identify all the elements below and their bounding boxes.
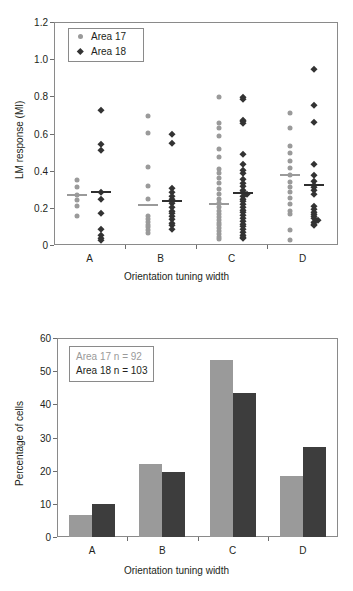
legend-item-area-17: Area 17	[69, 29, 143, 44]
scatter-x-tick-label: D	[299, 253, 306, 264]
median-line	[233, 192, 253, 194]
scatter-point	[216, 125, 221, 130]
bar-y-tick-label: 0	[21, 532, 51, 543]
scatter-panel: LM response (MI) 00.20.40.60.81.01.2 ABC…	[0, 0, 353, 295]
scatter-point	[287, 165, 292, 170]
sample-size-area-18: Area 18 n = 103	[76, 364, 147, 378]
bar-y-tick-mark	[53, 371, 57, 372]
median-line	[280, 174, 300, 176]
scatter-y-tick-mark	[50, 134, 54, 135]
scatter-x-tick-label: C	[228, 253, 235, 264]
bar-x-tick-label: C	[229, 545, 236, 556]
sample-size-area-17: Area 17 n = 92	[76, 350, 147, 364]
bar-area-18-A	[92, 504, 115, 537]
median-line	[209, 203, 229, 205]
scatter-y-tick-label: 0.2	[18, 202, 48, 213]
scatter-y-tick-label: 1.0	[18, 54, 48, 65]
bar-y-tick-mark	[53, 438, 57, 439]
scatter-x-tick-mark	[125, 245, 126, 249]
scatter-y-tick-mark	[50, 59, 54, 60]
scatter-y-tick-mark	[50, 22, 54, 23]
legend-label-area-18: Area 18	[91, 46, 126, 57]
scatter-point	[216, 180, 221, 185]
bar-x-tick-mark	[127, 537, 128, 541]
scatter-point	[145, 230, 150, 235]
scatter-point	[145, 164, 150, 169]
bar-x-tick-label: B	[159, 545, 166, 556]
scatter-point	[74, 203, 79, 208]
scatter-y-tick-label: 0.8	[18, 91, 48, 102]
bar-y-tick-mark	[53, 537, 57, 538]
scatter-y-tick-label: 0.6	[18, 128, 48, 139]
bar-area-17-A	[69, 515, 92, 537]
scatter-point	[287, 195, 292, 200]
diamond-marker-icon	[74, 49, 86, 54]
scatter-point	[216, 95, 221, 100]
scatter-y-tick-mark	[50, 171, 54, 172]
scatter-x-tick-label: A	[86, 253, 93, 264]
bar-panel: Percentage of cells 0102030405060 ABCD A…	[0, 295, 353, 591]
bar-x-tick-label: A	[89, 545, 96, 556]
bar-y-tick-mark	[53, 338, 57, 339]
bar-area-17-B	[139, 464, 162, 537]
scatter-point	[287, 151, 292, 156]
scatter-point	[287, 125, 292, 130]
median-line	[138, 204, 158, 206]
bar-y-tick-label: 50	[21, 366, 51, 377]
scatter-y-tick-label: 0	[18, 240, 48, 251]
scatter-legend: Area 17 Area 18	[68, 28, 144, 62]
bar-y-tick-label: 60	[21, 333, 51, 344]
scatter-point	[74, 185, 79, 190]
scatter-point	[145, 130, 150, 135]
scatter-x-tick-mark	[196, 245, 197, 249]
scatter-point	[287, 212, 292, 217]
scatter-x-tick-mark	[267, 245, 268, 249]
scatter-y-tick-mark	[50, 245, 54, 246]
scatter-point	[216, 134, 221, 139]
scatter-point	[145, 183, 150, 188]
bar-area-17-C	[210, 360, 233, 537]
bar-x-tick-mark	[268, 537, 269, 541]
bar-y-tick-label: 40	[21, 399, 51, 410]
bar-area-18-D	[303, 447, 326, 537]
scatter-y-tick-mark	[50, 208, 54, 209]
scatter-point	[74, 198, 79, 203]
bar-sample-size-box: Area 17 n = 92 Area 18 n = 103	[69, 346, 154, 382]
scatter-y-tick-label: 0.4	[18, 165, 48, 176]
scatter-point	[216, 154, 221, 159]
scatter-y-tick-mark	[50, 96, 54, 97]
bar-x-axis-title: Orientation tuning width	[0, 565, 353, 576]
scatter-y-tick-label: 1.2	[18, 17, 48, 28]
scatter-point	[216, 237, 221, 242]
scatter-point	[287, 202, 292, 207]
scatter-x-tick-label: B	[157, 253, 164, 264]
bar-area-18-C	[233, 393, 256, 537]
median-line	[67, 194, 87, 196]
bar-y-tick-label: 30	[21, 432, 51, 443]
scatter-point	[287, 159, 292, 164]
figure-container: LM response (MI) 00.20.40.60.81.01.2 ABC…	[0, 0, 353, 591]
scatter-point	[74, 177, 79, 182]
scatter-point	[287, 111, 292, 116]
bar-y-tick-mark	[53, 404, 57, 405]
scatter-point	[74, 214, 79, 219]
scatter-point	[287, 143, 292, 148]
bar-x-tick-mark	[198, 537, 199, 541]
bar-x-tick-label: D	[299, 545, 306, 556]
scatter-point	[287, 238, 292, 243]
bar-area-18-B	[162, 472, 185, 537]
scatter-x-axis-title: Orientation tuning width	[0, 271, 353, 282]
scatter-point	[287, 228, 292, 233]
bar-area-17-D	[280, 476, 303, 537]
bar-y-tick-mark	[53, 504, 57, 505]
legend-label-area-17: Area 17	[91, 31, 126, 42]
median-line	[304, 184, 324, 186]
circle-marker-icon	[74, 34, 86, 39]
scatter-point	[287, 190, 292, 195]
scatter-point	[145, 196, 150, 201]
scatter-point	[145, 113, 150, 118]
scatter-point	[216, 147, 221, 152]
median-line	[91, 191, 111, 193]
bar-y-tick-label: 20	[21, 465, 51, 476]
median-line	[162, 200, 182, 202]
